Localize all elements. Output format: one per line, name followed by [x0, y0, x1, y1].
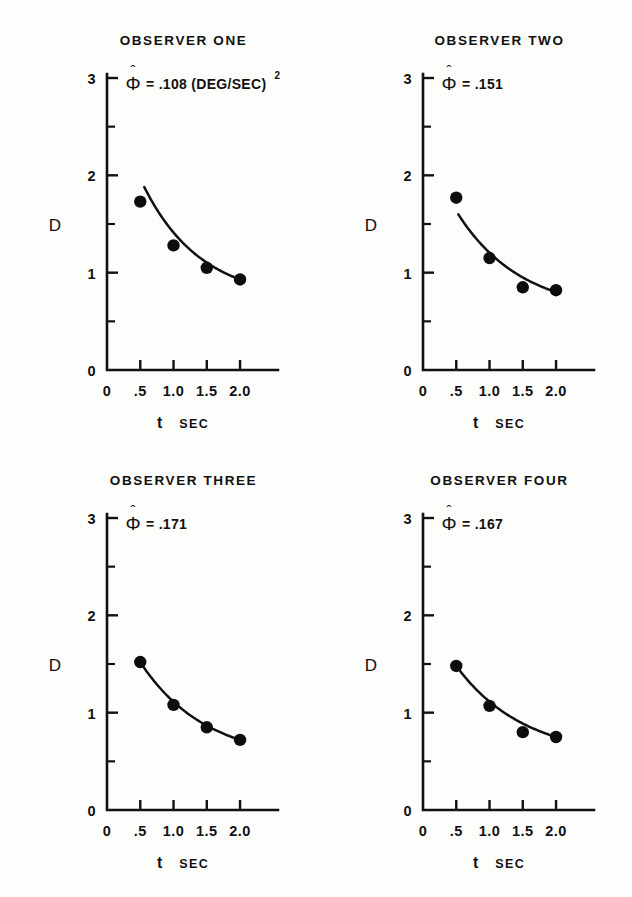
panel-title: OBSERVER THREE: [110, 473, 257, 488]
x-axis-label-variable: t: [157, 854, 163, 871]
data-point: [483, 700, 495, 712]
x-tick-label: 2.0: [229, 383, 250, 399]
panel-2: OBSERVER TWOˆΦ= .15101230.51.01.52.0DtSE…: [316, 0, 632, 450]
x-tick-label: 1.5: [512, 823, 533, 839]
x-tick-label: 2.0: [545, 383, 566, 399]
phi-symbol: Φ: [441, 513, 456, 534]
y-tick-label: 0: [88, 803, 96, 819]
data-point: [450, 660, 462, 672]
y-axis-label: D: [365, 216, 377, 235]
x-axis-label-variable: t: [473, 854, 479, 871]
x-tick-label: .5: [134, 823, 147, 839]
fit-curve: [456, 666, 556, 737]
panel-1: OBSERVER ONEˆΦ= .108 (DEG/SEC)201230.51.…: [0, 0, 316, 450]
y-tick-label: 3: [88, 511, 96, 527]
y-tick-label: 1: [404, 706, 412, 722]
y-tick-label: 1: [404, 266, 412, 282]
x-tick-label: 1.0: [479, 383, 500, 399]
x-tick-label: .5: [450, 823, 463, 839]
data-point: [134, 195, 146, 207]
x-tick-label: 1.5: [512, 383, 533, 399]
panel-grid: OBSERVER ONEˆΦ= .108 (DEG/SEC)201230.51.…: [0, 0, 632, 897]
data-point: [201, 721, 213, 733]
fit-curve: [458, 214, 556, 292]
x-tick-label: 2.0: [545, 823, 566, 839]
x-tick-label: 1.0: [163, 383, 184, 399]
phi-symbol: Φ: [125, 73, 140, 94]
y-axis-label: D: [49, 656, 61, 675]
x-tick-label: 1.5: [196, 383, 217, 399]
y-tick-label: 0: [88, 363, 96, 379]
y-tick-label: 0: [404, 803, 412, 819]
phi-estimate-value: = .171: [146, 516, 187, 532]
phi-estimate-value: = .151: [462, 76, 503, 92]
y-tick-label: 3: [404, 71, 412, 87]
panel-4: OBSERVER FOURˆΦ= .16701230.51.01.52.0DtS…: [316, 440, 632, 890]
phi-symbol: Φ: [125, 513, 140, 534]
axis-spines: [423, 74, 594, 370]
x-tick-label: 1.5: [196, 823, 217, 839]
data-point: [134, 656, 146, 668]
x-tick-label: 2.0: [229, 823, 250, 839]
axis-spines: [107, 514, 278, 810]
y-tick-label: 3: [404, 511, 412, 527]
x-tick-label: 1.0: [479, 823, 500, 839]
y-tick-label: 1: [88, 266, 96, 282]
data-point: [483, 252, 495, 264]
x-axis-label-unit: SEC: [179, 857, 209, 871]
y-tick-label: 3: [88, 71, 96, 87]
phi-symbol: Φ: [441, 73, 456, 94]
x-axis-label-unit: SEC: [495, 417, 525, 431]
phi-estimate-value: = .108 (DEG/SEC): [146, 76, 266, 92]
x-tick-label: 0: [103, 383, 111, 399]
x-axis-label-unit: SEC: [495, 857, 525, 871]
phi-estimate-value: = .167: [462, 516, 503, 532]
y-tick-label: 1: [88, 706, 96, 722]
data-point: [167, 699, 179, 711]
y-tick-label: 0: [404, 363, 412, 379]
x-tick-label: 0: [419, 383, 427, 399]
x-tick-label: .5: [134, 383, 147, 399]
x-tick-label: 1.0: [163, 823, 184, 839]
data-point: [550, 731, 562, 743]
fit-curve: [144, 187, 240, 279]
x-tick-label: 0: [103, 823, 111, 839]
panel-title: OBSERVER TWO: [435, 33, 565, 48]
panel-title: OBSERVER ONE: [120, 33, 248, 48]
panel-title: OBSERVER FOUR: [430, 473, 568, 488]
x-axis-label-variable: t: [473, 414, 479, 431]
data-point: [550, 284, 562, 296]
axis-spines: [423, 514, 594, 810]
data-point: [450, 192, 462, 204]
data-point: [234, 734, 246, 746]
data-point: [167, 239, 179, 251]
data-point: [517, 726, 529, 738]
y-tick-label: 2: [88, 168, 96, 184]
panel-3: OBSERVER THREEˆΦ= .17101230.51.01.52.0Dt…: [0, 440, 316, 890]
y-axis-label: D: [365, 656, 377, 675]
phi-estimate-exponent: 2: [274, 70, 280, 81]
x-tick-label: 0: [419, 823, 427, 839]
data-point: [234, 273, 246, 285]
data-point: [517, 281, 529, 293]
fit-curve: [140, 662, 240, 740]
y-axis-label: D: [49, 216, 61, 235]
y-tick-label: 2: [88, 608, 96, 624]
x-tick-label: .5: [450, 383, 463, 399]
y-tick-label: 2: [404, 608, 412, 624]
x-axis-label-variable: t: [157, 414, 163, 431]
y-tick-label: 2: [404, 168, 412, 184]
x-axis-label-unit: SEC: [179, 417, 209, 431]
axis-spines: [107, 74, 278, 370]
figure-canvas: OBSERVER ONEˆΦ= .108 (DEG/SEC)201230.51.…: [0, 0, 632, 897]
data-point: [201, 262, 213, 274]
